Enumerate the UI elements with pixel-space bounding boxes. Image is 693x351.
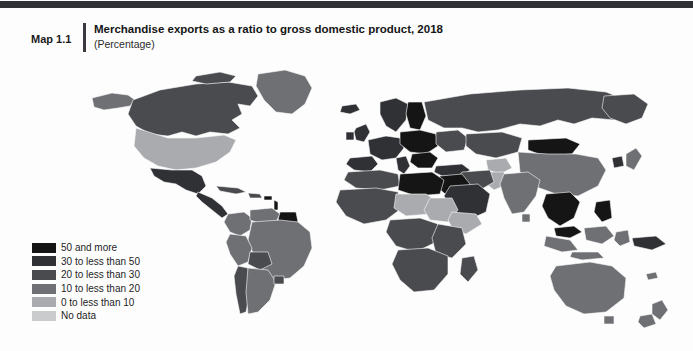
figure-number: Map 1.1 [31, 22, 79, 45]
figure-header: Map 1.1 Merchandise exports as a ratio t… [31, 22, 443, 52]
legend-swatch-10-to-20 [32, 284, 56, 294]
figure-titles: Merchandise exports as a ratio to gross … [94, 22, 443, 51]
region-libya-egypt [398, 172, 444, 196]
legend-label: 10 to less than 20 [61, 283, 140, 294]
region-puerto-rico [264, 196, 272, 200]
legend-label: 0 to less than 10 [61, 297, 134, 308]
region-korea [612, 156, 624, 168]
region-hispaniola [248, 193, 262, 198]
map-page: Map 1.1 Merchandise exports as a ratio t… [0, 0, 693, 351]
region-tasmania [604, 316, 614, 324]
legend-swatch-50-and-more [32, 243, 56, 253]
legend-item: No data [32, 309, 140, 323]
map-legend: 50 and more 30 to less than 50 20 to les… [32, 241, 140, 323]
legend-item: 30 to less than 50 [32, 255, 140, 269]
legend-label: 50 and more [61, 242, 117, 253]
legend-swatch-0-to-10 [32, 297, 56, 307]
legend-swatch-20-to-30 [32, 270, 56, 280]
region-ireland [346, 132, 354, 140]
legend-swatch-no-data [32, 311, 56, 321]
page-subtitle: (Percentage) [94, 37, 443, 51]
region-sri-lanka [522, 214, 530, 222]
header-vertical-rule [83, 23, 86, 52]
legend-item: 50 and more [32, 241, 140, 255]
legend-label: 20 to less than 30 [61, 269, 140, 280]
top-rule-divider [0, 1, 693, 8]
legend-swatch-30-to-50 [32, 256, 56, 266]
region-lesser-antilles [274, 200, 278, 210]
page-title: Merchandise exports as a ratio to gross … [94, 22, 443, 36]
legend-item: 10 to less than 20 [32, 282, 140, 296]
legend-label: 30 to less than 50 [61, 256, 140, 267]
legend-item: 0 to less than 10 [32, 295, 140, 309]
legend-item: 20 to less than 30 [32, 268, 140, 282]
region-uruguay [274, 276, 284, 284]
legend-label: No data [61, 310, 96, 321]
